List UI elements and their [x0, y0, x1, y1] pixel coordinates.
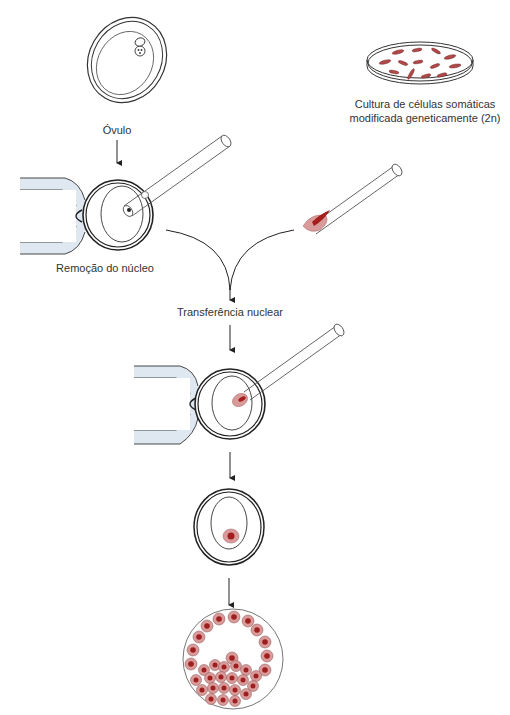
oocyte-icon: [72, 3, 182, 117]
label-ovulo: Óvulo: [87, 123, 147, 137]
enucleation-egg-icon: [76, 180, 153, 250]
nuclear-transfer-egg-icon: [190, 369, 265, 439]
label-culture-line1: Cultura de células somáticas: [345, 97, 505, 111]
label-nucleus-removal: Remoção do núcleo: [40, 261, 170, 275]
holding-pipette-icon: [134, 366, 198, 444]
label-nuclear-transfer: Transferência nuclear: [165, 305, 295, 319]
holding-pipette-icon: [20, 178, 85, 254]
reconstructed-egg-icon: [194, 489, 264, 565]
label-culture-line2: modificada geneticamente (2n): [345, 111, 505, 125]
blastocyst-icon: [183, 609, 283, 709]
somatic-cell-pipette-icon: [303, 162, 404, 234]
petri-dish-icon: [367, 42, 473, 84]
nuclear-transfer-diagram: Óvulo Cultura de células somáticas modif…: [0, 0, 510, 715]
